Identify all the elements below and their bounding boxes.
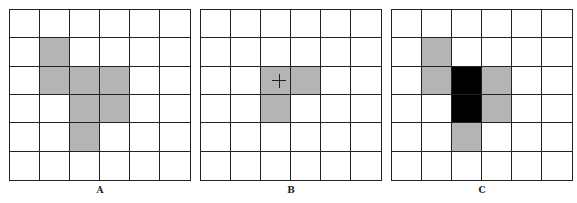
grid-cell-white bbox=[482, 10, 512, 38]
grid-cell-white bbox=[321, 152, 351, 180]
panel-label: C bbox=[391, 185, 573, 195]
grid-cell-black bbox=[452, 67, 482, 95]
grid-cell-gray bbox=[40, 67, 70, 95]
grid-cell-white bbox=[321, 38, 351, 66]
grid-cell-white bbox=[392, 67, 422, 95]
grid-cell-white bbox=[392, 95, 422, 123]
grid-cell-white bbox=[160, 10, 190, 38]
grid-cell-white bbox=[100, 152, 130, 180]
grid-cell-gray bbox=[291, 67, 321, 95]
grid-cell-white bbox=[452, 10, 482, 38]
grid-cell-white bbox=[231, 95, 261, 123]
panel-label: B bbox=[200, 185, 382, 195]
grid-cell-white bbox=[160, 38, 190, 66]
grid-cell-white bbox=[261, 123, 291, 151]
grid-cell-white bbox=[452, 38, 482, 66]
grid-cell-white bbox=[160, 67, 190, 95]
grid-cell-white bbox=[321, 10, 351, 38]
grid-cell-white bbox=[482, 38, 512, 66]
grid-cell-white bbox=[130, 152, 160, 180]
grid-cell-white bbox=[512, 10, 542, 38]
grid-cell-gray bbox=[70, 67, 100, 95]
grid-cell-gray bbox=[100, 95, 130, 123]
grid-cell-white bbox=[100, 123, 130, 151]
grid-cell-white bbox=[542, 152, 572, 180]
grid-cell-white bbox=[10, 10, 40, 38]
grid-cell-white bbox=[291, 10, 321, 38]
grid-cell-white bbox=[482, 152, 512, 180]
grid-cell-white bbox=[10, 67, 40, 95]
grid-cell-white bbox=[160, 152, 190, 180]
grid-cell-white bbox=[392, 123, 422, 151]
grid-cell-white bbox=[351, 10, 381, 38]
grid-cell-white bbox=[512, 123, 542, 151]
grid-cell-white bbox=[542, 123, 572, 151]
grid-cell-white bbox=[351, 95, 381, 123]
grid-cell-white bbox=[40, 95, 70, 123]
grid-cell-white bbox=[542, 38, 572, 66]
grid-cell-white bbox=[40, 10, 70, 38]
grid-cell-white bbox=[201, 67, 231, 95]
grid-cell-gray bbox=[452, 123, 482, 151]
grid-cell-white bbox=[70, 38, 100, 66]
grid-cell-white bbox=[130, 95, 160, 123]
grid-cell-white bbox=[291, 95, 321, 123]
grid-cell-white bbox=[512, 95, 542, 123]
grid-cell-white bbox=[261, 38, 291, 66]
grid-cell-white bbox=[201, 10, 231, 38]
grid-cell-white bbox=[321, 95, 351, 123]
grid-cell-white bbox=[130, 38, 160, 66]
grid-cell-gray bbox=[100, 67, 130, 95]
grid-cell-white bbox=[100, 10, 130, 38]
grid-cell-white bbox=[422, 123, 452, 151]
grid-cell-white bbox=[321, 123, 351, 151]
grid-cell-white bbox=[231, 152, 261, 180]
grid-cell-white bbox=[231, 10, 261, 38]
grid-cell-white bbox=[70, 152, 100, 180]
grid-cell-white bbox=[10, 95, 40, 123]
grid-cell-white bbox=[351, 38, 381, 66]
grid-cell-white bbox=[321, 67, 351, 95]
grid-cell-gray bbox=[70, 123, 100, 151]
grid-cell-white bbox=[70, 10, 100, 38]
grid-cell-white bbox=[482, 123, 512, 151]
grid-cell-white bbox=[10, 152, 40, 180]
grid-cell-white bbox=[130, 123, 160, 151]
grid-cell-white bbox=[201, 95, 231, 123]
grid-cell-white bbox=[261, 10, 291, 38]
grid-cell-white bbox=[351, 152, 381, 180]
grid-cell-white bbox=[160, 123, 190, 151]
grid-cell-white bbox=[201, 38, 231, 66]
grid-cell-gray bbox=[422, 38, 452, 66]
grid-cell-white bbox=[392, 10, 422, 38]
grid-c bbox=[391, 9, 573, 181]
grid-cell-white bbox=[422, 152, 452, 180]
panel-c: C bbox=[391, 9, 573, 181]
panel-a: A bbox=[9, 9, 191, 181]
grid-cell-white bbox=[452, 152, 482, 180]
grid-cell-white bbox=[351, 67, 381, 95]
grid-cell-white bbox=[512, 38, 542, 66]
grid-cell-white bbox=[392, 38, 422, 66]
crosshair-icon bbox=[272, 74, 286, 88]
panel-b: B bbox=[200, 9, 382, 181]
grid-cell-white bbox=[40, 152, 70, 180]
grid-cell-white bbox=[100, 38, 130, 66]
grid-cell-white bbox=[201, 123, 231, 151]
grid-cell-black bbox=[452, 95, 482, 123]
grid-cell-gray bbox=[482, 67, 512, 95]
grid-cell-white bbox=[542, 67, 572, 95]
grid-cell-white bbox=[542, 10, 572, 38]
grid-b bbox=[200, 9, 382, 181]
grid-cell-white bbox=[130, 10, 160, 38]
grid-cell-white bbox=[422, 95, 452, 123]
grid-cell-white bbox=[291, 123, 321, 151]
grid-cell-white bbox=[231, 123, 261, 151]
grid-cell-white bbox=[542, 95, 572, 123]
grid-cell-gray bbox=[422, 67, 452, 95]
panel-label: A bbox=[9, 185, 191, 195]
grid-cell-white bbox=[392, 152, 422, 180]
grid-cell-white bbox=[10, 123, 40, 151]
grid-cell-gray bbox=[40, 38, 70, 66]
grid-cell-white bbox=[130, 67, 160, 95]
